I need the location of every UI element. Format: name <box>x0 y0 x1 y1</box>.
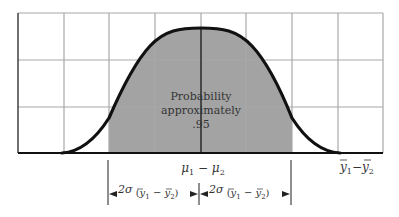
normal-curve-diagram: Probability approximately .95 μ1 − μ2 y1… <box>0 0 399 217</box>
svg-text:2σ (y1 − y2): 2σ (y1 − y2) <box>117 183 179 201</box>
probability-label-line3: .95 <box>192 118 210 131</box>
interval-right-label: 2σ (y1 − y2) <box>208 183 270 201</box>
probability-label-line1: Probability <box>170 90 232 103</box>
probability-label-line2: approximately <box>161 104 242 117</box>
svg-text:y1−y2: y1−y2 <box>339 160 374 176</box>
svg-text:2σ (y1 − y2): 2σ (y1 − y2) <box>208 183 270 201</box>
mean-difference-label: μ1 − μ2 <box>181 161 225 177</box>
interval-left-label: 2σ (y1 − y2) <box>117 183 179 201</box>
axis-label: y1−y2 <box>339 160 374 176</box>
